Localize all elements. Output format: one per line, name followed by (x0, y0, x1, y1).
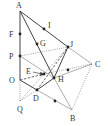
label-F: F (9, 30, 14, 39)
label-D: D (33, 94, 39, 103)
point-J (67, 46, 70, 49)
edge-CB (72, 64, 92, 110)
label-H: H (58, 75, 64, 84)
arrow-to-E (33, 72, 44, 76)
point-mid-HC (67, 69, 70, 72)
label-C: C (95, 60, 100, 69)
point-H (53, 77, 56, 80)
label-J: J (70, 40, 73, 49)
label-Q: Q (17, 105, 23, 114)
label-G: G (40, 39, 46, 48)
point-G (36, 43, 39, 46)
point-D (36, 89, 39, 92)
label-B: B (70, 114, 75, 123)
label-P: P (9, 52, 14, 61)
point-F (19, 33, 22, 36)
point-mid-DB (54, 100, 57, 103)
edge-DH (37, 78, 54, 90)
point-I (43, 28, 46, 31)
label-O: O (9, 76, 15, 85)
point-labels: A I F G J P C E O H D Q B (9, 1, 100, 123)
label-I: I (48, 21, 51, 30)
geometry-diagram: A I F G J P C E O H D Q B (0, 0, 108, 126)
label-E: E (26, 67, 31, 76)
edge-JC (68, 47, 92, 64)
edge-OD (20, 80, 37, 90)
label-A: A (16, 1, 22, 10)
point-E (43, 73, 46, 76)
point-P (19, 55, 22, 58)
